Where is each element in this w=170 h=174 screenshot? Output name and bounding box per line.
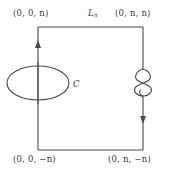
- curve-name-label: C: [73, 80, 80, 89]
- rectangular-loop: [38, 27, 143, 150]
- left-edge-arrowhead-up: [35, 40, 41, 48]
- vertex-label-top-left: (0, 0, n): [13, 9, 49, 18]
- right-edge-arrowhead-down: [140, 116, 146, 124]
- figure-container: (0, 0, n) (0, n, n) Ln (0, 0, −n) (0, n,…: [0, 0, 170, 174]
- diagram-canvas: [0, 0, 170, 174]
- vertex-label-top-right: (0, n, n): [115, 9, 151, 18]
- vertex-label-bottom-left: (0, 0, −n): [13, 155, 56, 164]
- loop-name-label: Ln: [88, 9, 98, 18]
- loop-name-subscript: n: [94, 11, 98, 18]
- knot-on-right-edge: [135, 69, 152, 97]
- vertex-label-bottom-right: (0, n, −n): [108, 155, 151, 164]
